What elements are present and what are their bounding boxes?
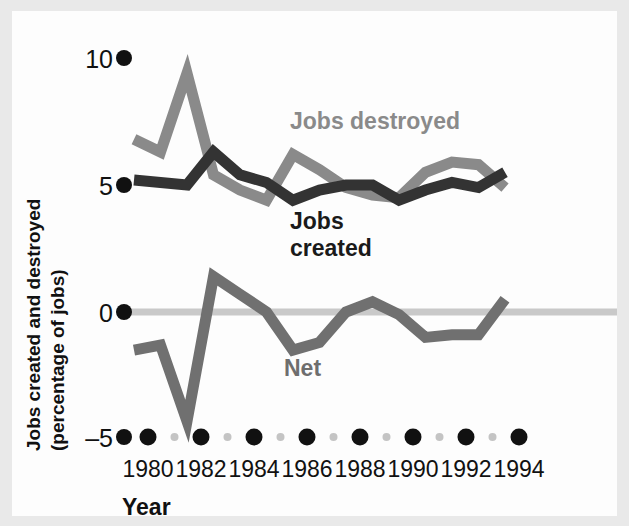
y-tick-dot-0: [116, 304, 132, 320]
x-tick-dot-1981: [171, 433, 179, 441]
chart-paper: 10 5 0 –5: [12, 11, 617, 516]
x-tick-dot-1984: [246, 429, 263, 446]
x-tick-dot-1993: [489, 433, 497, 441]
y-tick-label-0: 0: [99, 299, 113, 327]
x-tick-dot-1982: [193, 429, 210, 446]
x-tick-dot-1985: [277, 433, 285, 441]
x-tick-label-1984: 1984: [228, 456, 279, 482]
x-tick-dot-1990: [405, 429, 422, 446]
x-tick-dot-1992: [458, 429, 475, 446]
x-tick-label-1992: 1992: [440, 456, 491, 482]
x-tick-dot-1991: [436, 433, 444, 441]
x-tick-label-1986: 1986: [281, 456, 332, 482]
series-label-jobs-destroyed: Jobs destroyed: [290, 108, 460, 134]
series-label-jobs-created-line2: created: [290, 235, 372, 261]
x-axis-minor-ticks: [171, 433, 497, 441]
x-tick-label-1990: 1990: [387, 456, 438, 482]
y-tick-label-minus5: –5: [85, 424, 113, 452]
y-axis-title-line2: (percentage of jobs): [47, 269, 68, 451]
y-axis-ticks: [116, 50, 132, 445]
x-tick-dot-1989: [383, 433, 391, 441]
x-tick-dot-1988: [352, 429, 369, 446]
x-tick-label-1982: 1982: [175, 456, 226, 482]
x-tick-label-1980: 1980: [122, 456, 173, 482]
x-tick-dot-1983: [224, 433, 232, 441]
y-tick-dot-5: [116, 177, 132, 193]
y-tick-dot-minus5: [116, 429, 132, 445]
jobs-created-destroyed-chart: 10 5 0 –5: [12, 11, 617, 516]
series-line-net: [134, 276, 505, 421]
y-tick-label-5: 5: [99, 172, 113, 200]
x-tick-dot-1986: [299, 429, 316, 446]
y-tick-dot-10: [116, 50, 132, 66]
x-tick-label-1994: 1994: [493, 456, 544, 482]
series-label-net: Net: [284, 355, 321, 381]
x-tick-dot-1980: [140, 429, 157, 446]
x-tick-label-1988: 1988: [334, 456, 385, 482]
y-tick-label-10: 10: [85, 45, 113, 73]
x-tick-dot-1987: [330, 433, 338, 441]
x-tick-dot-1994: [511, 429, 528, 446]
y-axis-title: Jobs created and destroyed (percentage o…: [23, 199, 68, 451]
series-label-jobs-created-line1: Jobs: [290, 208, 344, 234]
screenshot-root: 10 5 0 –5: [0, 0, 629, 526]
y-axis-title-line1: Jobs created and destroyed: [23, 199, 44, 451]
x-axis-title: Year: [122, 494, 171, 516]
